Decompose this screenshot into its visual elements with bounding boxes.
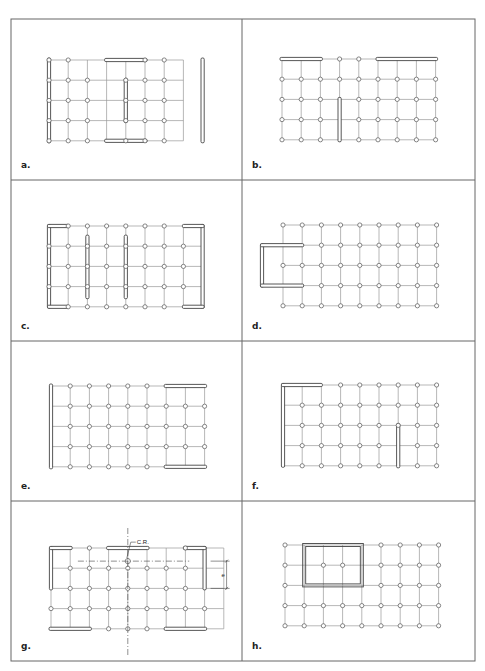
column-node bbox=[66, 244, 70, 248]
column-node bbox=[434, 77, 438, 81]
column-node bbox=[415, 223, 419, 227]
column-node bbox=[85, 264, 89, 268]
column-node bbox=[107, 566, 111, 570]
column-node bbox=[319, 223, 323, 227]
column-node bbox=[143, 264, 147, 268]
column-node bbox=[124, 264, 128, 268]
column-node bbox=[145, 566, 149, 570]
column-node bbox=[145, 586, 149, 590]
column-node bbox=[414, 118, 418, 122]
column-node bbox=[162, 244, 166, 248]
column-node bbox=[87, 546, 91, 550]
column-node bbox=[107, 627, 111, 631]
annotations bbox=[78, 528, 230, 656]
panel-b bbox=[280, 57, 438, 142]
column-node bbox=[126, 404, 130, 408]
column-node bbox=[183, 424, 187, 428]
column-node bbox=[145, 465, 149, 469]
panel-label-h: h. bbox=[252, 641, 262, 651]
column-node bbox=[300, 263, 304, 267]
column-node bbox=[183, 546, 187, 550]
column-node bbox=[143, 139, 147, 143]
l-wall bbox=[282, 383, 323, 386]
column-node bbox=[124, 119, 128, 123]
column-node bbox=[377, 403, 381, 407]
column-node bbox=[339, 284, 343, 288]
column-node bbox=[434, 118, 438, 122]
column-node bbox=[105, 285, 109, 289]
column-node bbox=[87, 424, 91, 428]
column-node bbox=[280, 97, 284, 101]
column-node bbox=[321, 604, 325, 608]
column-node bbox=[164, 404, 168, 408]
column-node bbox=[124, 139, 128, 143]
column-node bbox=[203, 424, 207, 428]
column-node bbox=[162, 305, 166, 309]
column-node bbox=[68, 566, 72, 570]
shear-wall bbox=[280, 57, 322, 60]
column-node bbox=[415, 383, 419, 387]
column-node bbox=[338, 77, 342, 81]
column-node bbox=[87, 384, 91, 388]
column-node bbox=[183, 404, 187, 408]
column-node bbox=[66, 224, 70, 228]
column-node bbox=[396, 284, 400, 288]
column-node bbox=[396, 383, 400, 387]
column-node bbox=[107, 465, 111, 469]
column-node bbox=[47, 119, 51, 123]
angle-wall bbox=[49, 547, 52, 590]
column-node bbox=[437, 583, 441, 587]
column-node bbox=[68, 607, 72, 611]
column-node bbox=[415, 403, 419, 407]
column-node bbox=[124, 244, 128, 248]
column-node bbox=[164, 445, 168, 449]
column-node bbox=[321, 563, 325, 567]
column-node bbox=[107, 445, 111, 449]
column-node bbox=[377, 304, 381, 308]
column-node bbox=[319, 464, 323, 468]
column-node bbox=[377, 223, 381, 227]
channel-wall bbox=[201, 225, 204, 309]
column-node bbox=[379, 543, 383, 547]
column-node bbox=[145, 384, 149, 388]
column-node bbox=[300, 423, 304, 427]
column-node bbox=[318, 138, 322, 142]
column-node bbox=[395, 138, 399, 142]
column-node bbox=[143, 58, 147, 62]
column-node bbox=[358, 383, 362, 387]
column-node bbox=[377, 243, 381, 247]
center-of-rigidity-label: C.R. bbox=[137, 539, 149, 545]
column-node bbox=[66, 119, 70, 123]
column-node bbox=[280, 118, 284, 122]
column-node bbox=[437, 624, 441, 628]
column-node bbox=[126, 445, 130, 449]
column-node bbox=[415, 243, 419, 247]
column-node bbox=[85, 139, 89, 143]
column-node bbox=[338, 57, 342, 61]
column-node bbox=[357, 77, 361, 81]
column-node bbox=[396, 423, 400, 427]
column-node bbox=[183, 607, 187, 611]
column-node bbox=[126, 424, 130, 428]
column-node bbox=[319, 423, 323, 427]
column-node bbox=[377, 284, 381, 288]
column-node bbox=[417, 543, 421, 547]
column-node bbox=[300, 464, 304, 468]
column-node bbox=[47, 58, 51, 62]
column-node bbox=[68, 465, 72, 469]
column-node bbox=[300, 304, 304, 308]
column-node bbox=[85, 98, 89, 102]
column-node bbox=[107, 607, 111, 611]
panel-label-b: b. bbox=[252, 160, 262, 170]
column-node bbox=[162, 264, 166, 268]
column-node bbox=[49, 607, 53, 611]
column-node bbox=[396, 304, 400, 308]
column-node bbox=[145, 627, 149, 631]
outer-border bbox=[11, 19, 475, 661]
column-node bbox=[47, 244, 51, 248]
column-node bbox=[85, 244, 89, 248]
panel-f bbox=[281, 383, 438, 468]
column-node bbox=[339, 223, 343, 227]
column-node bbox=[319, 304, 323, 308]
column-node bbox=[360, 604, 364, 608]
